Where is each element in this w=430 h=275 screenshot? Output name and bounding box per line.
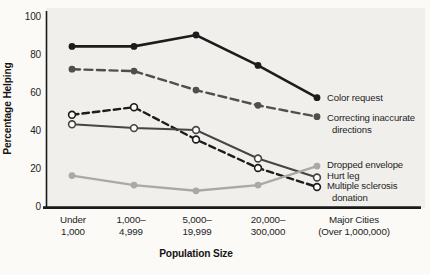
series-marker-hurt-leg xyxy=(69,121,76,128)
x-label-major-cities: Major Cities (Over 1,000,000) xyxy=(299,214,409,238)
legend-label: Multiple sclerosis xyxy=(327,180,397,192)
series-marker-correcting-inaccurate-directions xyxy=(131,68,138,75)
legend-label: Hurt leg xyxy=(327,170,359,181)
series-marker-hurt-leg xyxy=(314,174,321,181)
legend-label: donation xyxy=(327,192,397,204)
y-tick-0: 0 xyxy=(11,201,41,212)
series-marker-hurt-leg xyxy=(193,127,200,134)
x-label-line: (Over 1,000,000) xyxy=(299,226,409,238)
series-marker-color-request xyxy=(255,62,262,69)
legend-hurt-leg: Hurt leg xyxy=(327,170,359,181)
legend-label: Dropped envelope xyxy=(327,159,403,170)
series-marker-dropped-envelope xyxy=(255,182,262,189)
y-tick-20: 20 xyxy=(11,163,41,174)
y-tick-80: 80 xyxy=(11,49,41,60)
series-marker-color-request xyxy=(314,94,321,101)
legend-label: directions xyxy=(327,124,415,136)
series-marker-multiple-sclerosis-donation xyxy=(69,111,76,118)
series-marker-dropped-envelope xyxy=(314,163,321,170)
legend-dropped-envelope: Dropped envelope xyxy=(327,159,403,170)
series-marker-multiple-sclerosis-donation xyxy=(314,184,321,191)
series-marker-correcting-inaccurate-directions xyxy=(255,102,262,109)
series-marker-color-request xyxy=(69,43,76,50)
series-marker-color-request xyxy=(131,43,138,50)
x-label-line: Major Cities xyxy=(299,214,409,226)
x-axis-title: Population Size xyxy=(96,248,296,259)
series-marker-dropped-envelope xyxy=(131,182,138,189)
legend-correcting-inaccurate-directions: Correcting inaccurate directions xyxy=(327,112,415,136)
series-marker-dropped-envelope xyxy=(193,187,200,194)
legend-label: Color request xyxy=(327,92,383,103)
plot-panel xyxy=(46,8,425,208)
series-marker-color-request xyxy=(193,32,200,39)
series-marker-dropped-envelope xyxy=(69,172,76,179)
y-tick-40: 40 xyxy=(11,125,41,136)
series-marker-correcting-inaccurate-directions xyxy=(69,66,76,73)
legend-color-request: Color request xyxy=(327,92,383,103)
series-marker-hurt-leg xyxy=(131,125,138,132)
series-marker-correcting-inaccurate-directions xyxy=(314,113,321,120)
y-tick-100: 100 xyxy=(11,11,41,22)
series-marker-hurt-leg xyxy=(255,155,262,162)
series-marker-correcting-inaccurate-directions xyxy=(193,87,200,94)
legend-multiple-sclerosis-donation: Multiple sclerosis donation xyxy=(327,180,397,204)
series-marker-multiple-sclerosis-donation xyxy=(193,136,200,143)
series-marker-multiple-sclerosis-donation xyxy=(255,165,262,172)
series-marker-multiple-sclerosis-donation xyxy=(131,104,138,111)
y-tick-60: 60 xyxy=(11,87,41,98)
legend-label: Correcting inaccurate xyxy=(327,112,415,124)
y-axis-title: Percentage Helping xyxy=(2,9,13,209)
helping-behavior-chart: Percentage Helping 100 80 60 40 20 0 Und… xyxy=(0,0,430,275)
